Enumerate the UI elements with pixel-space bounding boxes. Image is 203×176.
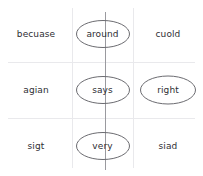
grid-cell-r1c1[interactable]: says xyxy=(72,62,133,118)
grid-cell-r1c0[interactable]: agian xyxy=(0,62,72,118)
word-label: says xyxy=(92,86,113,95)
word-label: cuold xyxy=(156,30,181,39)
word-label: right xyxy=(157,86,179,95)
grid-cell-r1c2[interactable]: right xyxy=(133,62,203,118)
grid-cell-r2c1[interactable]: very xyxy=(72,118,133,174)
grid-cell-r2c0[interactable]: sigt xyxy=(0,118,72,174)
word-grid-worksheet: becuase around cuold agian says right si… xyxy=(0,0,203,176)
word-label: agian xyxy=(23,86,48,95)
word-label: around xyxy=(86,30,118,39)
word-label: becuase xyxy=(17,30,55,39)
word-label: very xyxy=(92,142,112,151)
grid-cell-r0c0[interactable]: becuase xyxy=(0,6,72,62)
grid-cell-r0c2[interactable]: cuold xyxy=(133,6,203,62)
word-label: sigt xyxy=(28,142,45,151)
grid-cell-r2c2[interactable]: siad xyxy=(133,118,203,174)
grid-cell-r0c1[interactable]: around xyxy=(72,6,133,62)
word-label: siad xyxy=(159,142,178,151)
